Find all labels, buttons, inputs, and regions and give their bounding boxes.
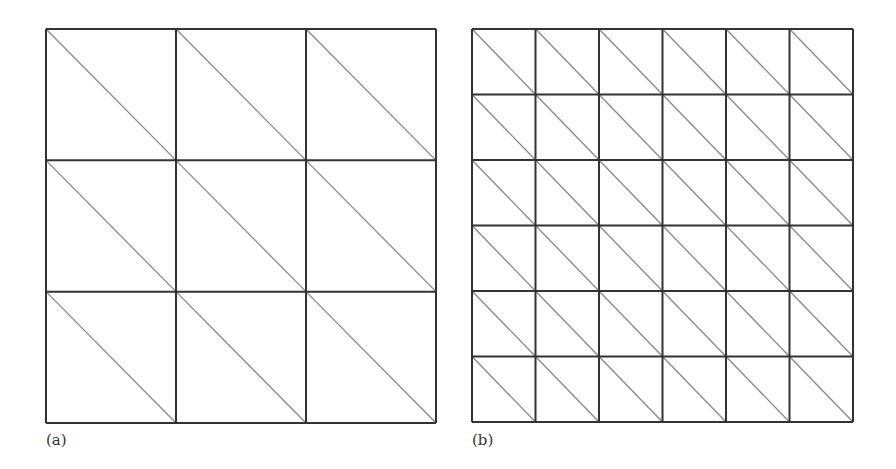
diagonal-edge (790, 160, 854, 226)
diagonal-edge (176, 160, 306, 291)
panel-b-label: (b) (472, 431, 493, 449)
diagonal-edge (790, 29, 854, 95)
diagonal-edge (46, 292, 176, 423)
diagonal-edge (726, 29, 790, 95)
diagonal-edge (663, 291, 727, 357)
diagonal-edge (726, 95, 790, 161)
mesh-panel-b (472, 29, 853, 422)
diagonal-edge (472, 357, 536, 423)
diagonal-edge (176, 292, 306, 423)
diagonal-edge (472, 95, 536, 161)
diagonal-edge (726, 357, 790, 423)
diagonal-edge (536, 160, 600, 226)
diagonal-edge (306, 292, 436, 423)
diagonal-edge (663, 226, 727, 292)
diagonal-edge (663, 357, 727, 423)
diagonal-edge (536, 226, 600, 292)
diagonal-edge (306, 29, 436, 160)
triangular-mesh-figure (0, 0, 896, 469)
diagonal-edge (46, 29, 176, 160)
diagonal-edge (46, 160, 176, 291)
diagonal-edge (790, 226, 854, 292)
diagonal-edge (663, 95, 727, 161)
diagonal-edge (176, 29, 306, 160)
diagonal-edge (663, 160, 727, 226)
diagonal-edge (536, 291, 600, 357)
diagonal-edge (599, 357, 663, 423)
diagonal-edge (472, 160, 536, 226)
diagonal-edge (536, 29, 600, 95)
diagonal-edge (599, 226, 663, 292)
diagonal-edge (306, 160, 436, 291)
diagonal-edge (790, 95, 854, 161)
diagonal-edge (599, 291, 663, 357)
diagonal-edge (726, 291, 790, 357)
mesh-panel-a (46, 29, 436, 423)
diagonal-edge (663, 29, 727, 95)
diagonal-edge (599, 160, 663, 226)
diagonal-edge (472, 29, 536, 95)
panel-a-label: (a) (46, 431, 67, 449)
diagonal-edge (726, 160, 790, 226)
diagonal-edge (599, 95, 663, 161)
diagonal-edge (536, 357, 600, 423)
diagonal-edge (599, 29, 663, 95)
diagonal-edge (790, 357, 854, 423)
diagonal-edge (472, 226, 536, 292)
diagonal-edge (790, 291, 854, 357)
diagonal-edge (726, 226, 790, 292)
diagonal-edge (536, 95, 600, 161)
diagonal-edge (472, 291, 536, 357)
